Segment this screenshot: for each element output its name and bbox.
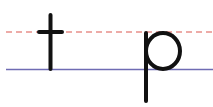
letter-t (39, 15, 62, 69)
letter-p (146, 33, 180, 101)
practice-lines-canvas (0, 0, 213, 107)
